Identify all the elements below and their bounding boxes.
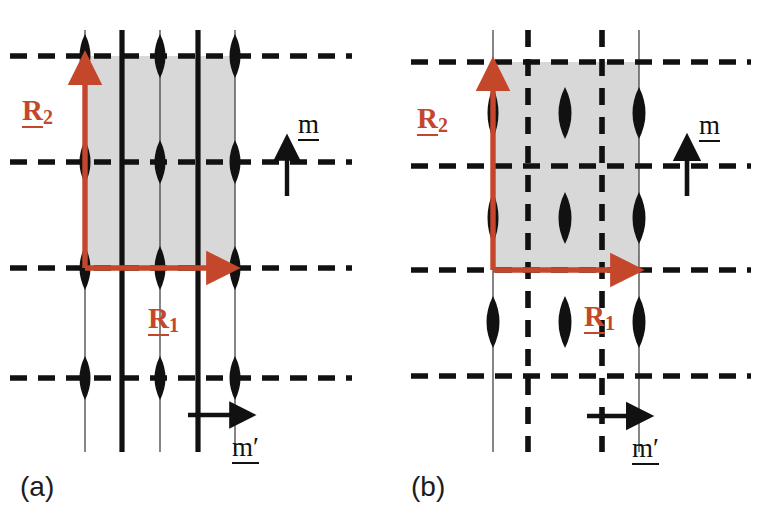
label-mirror-m-prime-text: m′	[232, 434, 259, 464]
panel-caption-b: (b)	[411, 473, 445, 501]
label-mirror-m-prime: m′	[632, 435, 659, 465]
label-mirror-m-prime-text: m′	[632, 435, 659, 465]
label-R2-letter: R	[22, 94, 43, 126]
label-R1-letter: R	[148, 302, 169, 334]
label-R2: R2	[417, 104, 448, 136]
label-R2: R2	[22, 96, 53, 128]
label-R1: R1	[584, 302, 615, 334]
label-mirror-m-prime: m′	[232, 434, 259, 464]
label-R1: R1	[148, 304, 179, 336]
figure-root: R2 R1 m m′ (a)	[0, 0, 777, 531]
label-R2-subscript: 2	[438, 114, 448, 136]
panel-b-lattice-svg	[389, 0, 777, 531]
label-R2-letter: R	[417, 102, 438, 134]
label-mirror-m: m	[298, 111, 319, 141]
panel-b: R2 R1 m m′ (b)	[389, 0, 777, 531]
label-mirror-m-text: m	[699, 112, 720, 142]
label-R1-subscript: 1	[605, 312, 615, 334]
label-mirror-m-text: m	[298, 111, 319, 141]
label-R2-subscript: 2	[43, 106, 53, 128]
label-mirror-m: m	[699, 112, 720, 142]
label-R1-letter: R	[584, 300, 605, 332]
label-R1-subscript: 1	[169, 314, 179, 336]
panel-a: R2 R1 m m′ (a)	[0, 0, 388, 531]
panel-caption-a: (a)	[20, 473, 54, 501]
panel-a-lattice-svg	[0, 0, 388, 531]
